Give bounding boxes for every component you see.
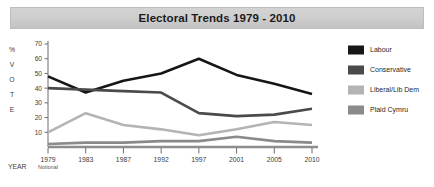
x-axis-tick-label: 1983 [78,156,93,163]
x-axis-tick-sublabel: Notional [38,164,58,170]
page-title: Electoral Trends 1979 - 2010 [139,12,296,24]
legend-swatch-0 [348,46,364,55]
legend-swatch-1 [348,66,364,75]
line-chart-svg: %VOTE 10203040506070 1979Notional1983198… [0,30,434,187]
legend-swatch-2 [348,86,364,95]
x-axis: 1979Notional1983198719921997200120052010 [38,147,320,170]
legend-label-1: Conservative [370,66,411,73]
y-axis-title-char: V [10,61,15,68]
y-axis-tick-label: 60 [35,55,43,62]
x-axis-title: YEAR [8,163,27,170]
y-axis-tick-label: 20 [35,114,43,121]
x-axis-tick-label: 1997 [191,156,206,163]
x-axis-tick-label: 2001 [229,156,244,163]
x-axis-tick-label: 1992 [154,156,169,163]
y-axis-title: %VOTE [9,46,15,113]
x-axis-tick-label: 1979 [40,156,55,163]
legend-label-3: Plaid Cymru [370,106,408,114]
y-axis-tick-label: 10 [35,129,43,136]
chart-title-bar: Electoral Trends 1979 - 2010 [10,7,424,29]
data-series-group [48,59,312,144]
legend-label-2: Liberal/Lib Dem [370,86,419,93]
y-axis: 10203040506070 [35,40,48,147]
y-axis-tick-label: 50 [35,70,43,77]
series-line-liberal-lib-dem [48,113,312,135]
y-axis-title-char: % [9,46,15,53]
electoral-trends-chart-card: Electoral Trends 1979 - 2010 %VOTE 10203… [0,0,434,187]
y-axis-tick-label: 70 [35,40,43,47]
legend-swatch-3 [348,106,364,115]
chart-plot-area: %VOTE 10203040506070 1979Notional1983198… [0,30,434,187]
legend-label-0: Labour [370,46,392,53]
chart-legend: LabourConservativeLiberal/Lib DemPlaid C… [348,46,419,115]
x-axis-tick-label: 2005 [267,156,282,163]
y-axis-tick-label: 30 [35,99,43,106]
y-axis-title-char: E [10,106,15,113]
x-axis-tick-label: 1987 [116,156,131,163]
series-line-plaid-cymru [48,137,312,144]
y-axis-title-char: O [9,76,14,83]
y-axis-title-char: T [10,91,14,98]
y-axis-tick-label: 40 [35,85,43,92]
x-axis-tick-label: 2010 [304,156,319,163]
